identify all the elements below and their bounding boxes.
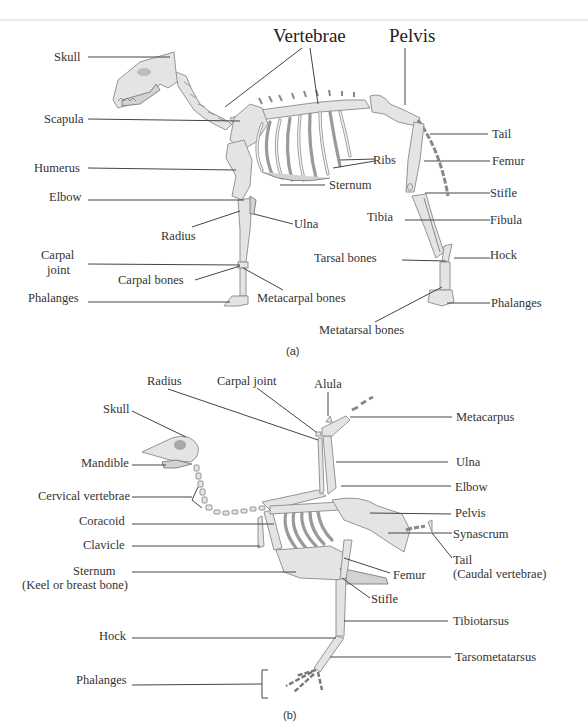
label-carpal-joint-line1: Carpal — [41, 248, 75, 262]
label-femur: Femur — [492, 154, 525, 168]
label-b-skull: Skull — [103, 402, 130, 416]
label-b-cervical-vertebrae: Cervical vertebrae — [38, 489, 130, 503]
mammal-ribs — [257, 112, 350, 180]
label-ribs: Ribs — [373, 153, 396, 167]
mammal-pelvis — [370, 95, 420, 126]
label-b-tail-line2: (Caudal vertebrae) — [453, 567, 546, 581]
mammal-femur — [406, 122, 424, 192]
bird-tibiotarsus — [336, 578, 346, 636]
bird-ulna — [323, 436, 336, 494]
mammal-patella — [408, 184, 413, 191]
bird-ribs — [285, 512, 332, 548]
bird-digit-phalanges — [352, 397, 373, 410]
label-b-coracoid: Coracoid — [79, 514, 126, 528]
label-b-radius: Radius — [147, 374, 182, 388]
bird-skeleton — [142, 397, 432, 698]
mammal-neck-vertebrae — [176, 72, 232, 130]
bird-sternum — [276, 546, 346, 580]
label-sternum: Sternum — [329, 178, 372, 192]
bird-clavicle — [258, 516, 264, 548]
label-humerus: Humerus — [34, 161, 80, 175]
bird-cervical-vertebrae — [194, 465, 265, 515]
label-b-tail-line1: Tail — [453, 553, 473, 567]
label-b-tibiotarsus: Tibiotarsus — [453, 614, 509, 628]
label-phalanges-hind: Phalanges — [491, 296, 542, 310]
bracket-phalanges — [262, 670, 268, 698]
label-b-pelvis: Pelvis — [455, 506, 486, 520]
caption-b: (b) — [283, 709, 296, 721]
label-radius: Radius — [161, 229, 196, 243]
label-phalanges-front: Phalanges — [28, 291, 79, 305]
label-b-mandible: Mandible — [81, 456, 129, 470]
bird-skull — [142, 436, 198, 462]
bird-radius — [318, 438, 324, 494]
label-carpal-joint-line2: joint — [46, 263, 70, 277]
label-tibia: Tibia — [367, 210, 393, 224]
label-tail: Tail — [492, 127, 512, 141]
label-b-ulna: Ulna — [456, 455, 481, 469]
label-elbow: Elbow — [49, 190, 82, 204]
label-fibula: Fibula — [490, 213, 522, 227]
bird-alula — [326, 416, 332, 422]
label-metatarsal-bones: Metatarsal bones — [319, 323, 404, 337]
bird-coracoid — [264, 510, 282, 550]
mammal-front-phalanges — [224, 296, 248, 306]
label-b-clavicle: Clavicle — [83, 538, 125, 552]
label-skull: Skull — [54, 50, 81, 64]
figure-a-labels: Skull Vertebrae Pelvis Scapula Tail Hume… — [28, 25, 542, 357]
bird-pygostyle — [428, 520, 432, 532]
figure-b-labels: Radius Carpal joint Alula Skull Metacarp… — [22, 374, 546, 721]
label-tarsal-bones: Tarsal bones — [314, 251, 377, 265]
mammal-ulna — [250, 196, 256, 214]
label-b-sternum-line2: (Keel or breast bone) — [22, 578, 128, 592]
bird-tail — [406, 526, 425, 530]
label-b-tarsometatarsus: Tarsometatarsus — [455, 650, 536, 664]
bird-metacarpus — [322, 416, 350, 436]
mammal-sternum — [262, 172, 330, 181]
mammal-metacarpal-bones — [240, 268, 246, 296]
bird-toe-phalanges — [286, 670, 322, 692]
label-b-femur: Femur — [393, 568, 426, 582]
label-pelvis: Pelvis — [389, 25, 435, 46]
label-b-hock: Hock — [99, 629, 127, 643]
label-carpal-bones: Carpal bones — [118, 273, 184, 287]
label-hock: Hock — [490, 248, 518, 262]
mammal-skull — [113, 52, 180, 108]
bird-carpal-joint — [316, 432, 321, 436]
caption-a: (a) — [286, 345, 299, 357]
mammal-metatarsal-bones — [440, 262, 450, 290]
label-b-elbow: Elbow — [455, 480, 488, 494]
label-b-metacarpus: Metacarpus — [456, 410, 514, 424]
label-scapula: Scapula — [44, 112, 84, 126]
label-b-carpal-joint: Carpal joint — [217, 374, 277, 388]
bird-tarsometatarsus — [314, 636, 344, 672]
mammal-skeleton — [113, 52, 454, 306]
label-b-alula: Alula — [314, 377, 342, 391]
label-b-synascrum: Synascrum — [453, 527, 509, 541]
label-ulna: Ulna — [294, 217, 319, 231]
skeleton-figure: Skull Vertebrae Pelvis Scapula Tail Hume… — [0, 0, 588, 728]
label-b-stifle: Stifle — [371, 592, 399, 606]
label-b-sternum-line1: Sternum — [73, 564, 116, 578]
label-vertebrae: Vertebrae — [273, 25, 346, 46]
mammal-hock — [442, 244, 452, 262]
label-b-phalanges: Phalanges — [76, 673, 127, 687]
label-metacarpal-bones: Metacarpal bones — [257, 291, 346, 305]
label-stifle: Stifle — [490, 186, 518, 200]
